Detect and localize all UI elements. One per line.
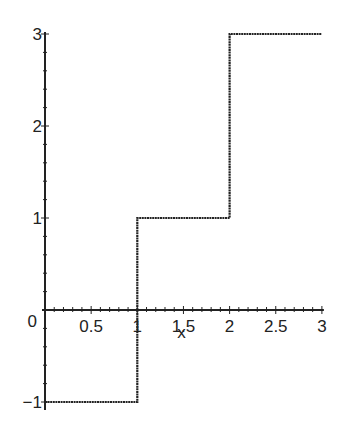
y-tick-label: 1 xyxy=(33,209,42,228)
y-tick-label: −1 xyxy=(23,393,42,412)
origin-label: 0 xyxy=(28,312,37,331)
plot-series xyxy=(45,34,322,402)
x-axis-title: x xyxy=(177,323,186,342)
y-tick-label: 2 xyxy=(33,117,42,136)
y-tick-label: 3 xyxy=(33,25,42,44)
axes xyxy=(41,32,324,410)
x-tick-label: 1 xyxy=(133,317,142,336)
step-function-plot: 0.511.522.53−11230x xyxy=(0,0,347,429)
x-tick-label: 2.5 xyxy=(264,317,288,336)
step-line xyxy=(45,34,322,402)
x-tick-label: 0.5 xyxy=(79,317,103,336)
x-tick-label: 2 xyxy=(225,317,234,336)
x-tick-label: 3 xyxy=(317,317,326,336)
